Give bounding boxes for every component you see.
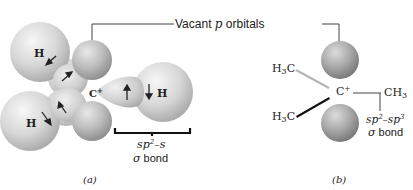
bond-back-wedge: [296, 70, 329, 88]
callout-text-italic: p: [215, 17, 223, 31]
panel-a-caption: (a): [83, 174, 97, 185]
hydrogen-label-bottom-left: H: [26, 117, 36, 130]
bond-label-b-line1: sp2–sp3: [366, 113, 404, 125]
bond-brace-a: [115, 128, 190, 136]
sigma-b: σ: [368, 126, 376, 139]
charge-b: +: [344, 85, 350, 93]
p-orbital-upper-b: [321, 41, 359, 79]
methyl-upper-c: C: [287, 62, 295, 75]
bond-word-b: bond: [376, 126, 404, 138]
vacant-p-orbitals-label: Vacant p orbitals: [175, 17, 265, 31]
sp2-lobe-right: [96, 77, 144, 108]
bond-label-a-line1: sp2–s: [137, 138, 165, 151]
bond-label-a-line2: σ bond: [133, 152, 168, 165]
bond-a-sp: sp: [137, 138, 150, 151]
hydrogen-label-right: H: [157, 87, 167, 100]
p-orbital-lower-b: [321, 104, 359, 142]
bond-b-sup-b: 3: [400, 113, 404, 121]
carbocation-label-a: C+: [89, 86, 103, 99]
bond-b-mid: –sp: [383, 113, 400, 125]
bond-label-b-line2: σ bond: [368, 126, 403, 139]
panel-b-caption: (b): [332, 174, 346, 185]
bond-b-sp-a: sp: [366, 113, 378, 125]
methyl-label-right: CH3: [384, 86, 407, 100]
bond-a-suffix: –s: [154, 138, 165, 151]
hydrogen-label-top-left: H: [34, 47, 44, 60]
callout-text-suffix: orbitals: [223, 17, 265, 31]
carbon-symbol-a: C: [89, 88, 97, 99]
methyl-label-upper: H3C: [272, 62, 295, 76]
carbocation-orbital-diagram: Vacant p orbitals H H H C+ sp2–s σ bond …: [0, 0, 413, 190]
p-orbital-upper-a: [72, 40, 112, 80]
p-orbital-lower-a: [72, 101, 112, 141]
carbocation-label-b: C+: [336, 85, 350, 98]
callout-text-prefix: Vacant: [175, 17, 215, 31]
sigma-a: σ: [133, 152, 141, 165]
methyl-lower-h: H: [272, 110, 282, 123]
methyl-lower-c: C: [287, 110, 295, 123]
methyl-upper-h: H: [272, 62, 282, 75]
methyl-label-lower: H3C: [272, 110, 295, 124]
charge-a: +: [97, 86, 103, 95]
methyl-right-ch: CH: [384, 86, 402, 99]
bond-word-a: bond: [141, 152, 169, 164]
methyl-right-sub: 3: [402, 91, 407, 100]
